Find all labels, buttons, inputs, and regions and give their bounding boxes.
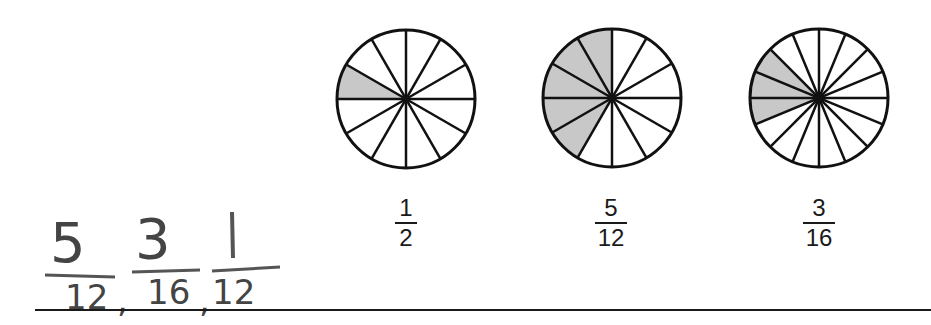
numerator: 5 [50,210,86,275]
answer-fraction-2: 3 16 [132,206,200,312]
denominator: 16 [147,272,190,312]
answer-line [35,309,931,311]
denominator: 12 [65,277,108,317]
handwritten-answer: 5 12 , 3 16 , 12 [0,0,931,325]
answer-fraction-1: 5 12 [45,210,115,317]
numerator: 3 [135,206,171,271]
comma: , [117,280,128,320]
denominator: 12 [212,272,255,312]
answer-fraction-3: 12 [212,212,280,312]
comma: , [199,280,210,320]
